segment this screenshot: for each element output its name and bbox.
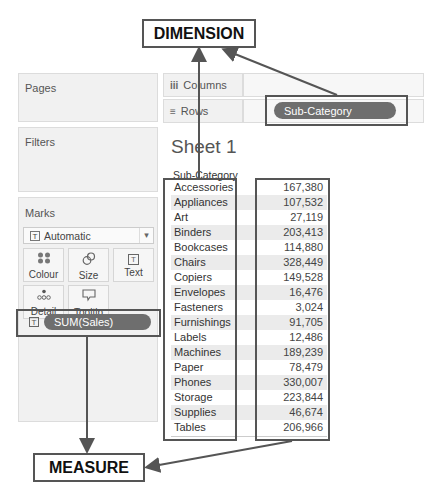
annotation-arrows: [0, 0, 424, 503]
